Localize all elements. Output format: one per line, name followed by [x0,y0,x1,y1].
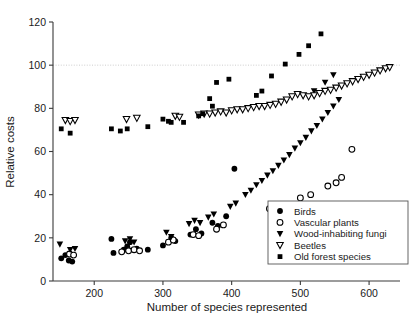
data-point [339,174,345,180]
x-tick-label: 600 [360,287,378,299]
legend-label: Birds [294,206,316,217]
data-point [207,96,212,101]
data-point [145,124,150,129]
data-point [59,126,64,131]
legend: BirdsVascular plantsWood-inhabiting fung… [268,201,408,264]
data-point [126,248,132,254]
data-point [322,80,329,86]
legend-label: Wood-inhabiting fungi [294,228,387,239]
y-tick-label: 0 [40,275,46,287]
data-point [214,226,220,232]
y-tick-label: 40 [34,188,46,200]
data-point [161,117,166,122]
data-point [308,128,315,134]
data-point [254,93,259,98]
data-point [336,97,343,103]
y-tick-label: 20 [34,232,46,244]
data-point [261,103,268,109]
legend-label: Old forest species [294,251,371,262]
data-point [270,168,277,174]
figure-container: 020406080100120200300400500600 Number of… [0,0,415,334]
data-point [333,180,339,186]
data-point [292,146,299,152]
data-point [197,220,204,226]
data-point [297,140,304,146]
data-point [212,110,219,116]
legend-marker-icon [277,208,283,214]
data-point [308,192,314,198]
legend-marker-icon [277,219,283,225]
data-point [220,222,226,228]
data-point [227,204,234,210]
y-tick-label: 80 [34,102,46,114]
data-point [196,113,201,118]
data-point [239,107,246,113]
data-point [325,183,331,189]
data-point [169,120,174,125]
data-point [108,236,114,242]
data-point [68,131,73,136]
legend-marker-icon [278,254,283,259]
data-point [325,110,332,116]
data-point [200,111,205,116]
data-point [311,93,318,99]
data-point [109,126,114,131]
data-point [297,52,302,57]
data-point [327,87,334,93]
data-point [232,201,239,207]
series-beetles [62,65,393,125]
x-tick-label: 200 [85,287,103,299]
data-point [211,211,218,217]
data-point [191,218,198,224]
data-point [303,135,310,141]
data-point [137,248,143,254]
data-point [281,157,288,163]
data-point [231,166,237,172]
data-point [267,102,274,108]
data-point [259,178,266,184]
x-tick-label: 300 [154,287,172,299]
data-point [275,163,282,169]
data-point [283,62,288,67]
series-old-forest-species [59,31,324,135]
legend-label: Vascular plants [294,217,359,228]
data-point [259,89,264,94]
data-point [269,74,274,79]
y-tick-label: 100 [28,59,46,71]
x-tick-label: 500 [292,287,310,299]
data-point [253,182,260,188]
data-point [210,104,215,109]
data-point [206,111,213,117]
data-point [196,233,202,239]
data-point [72,246,79,252]
data-point [205,215,212,221]
data-point [123,116,130,122]
data-point [264,173,271,179]
data-point [160,242,166,248]
y-axis-title: Relative costs [4,116,16,188]
x-axis-title: Number of species represented [147,301,307,313]
data-point [210,220,216,226]
legend-label: Beetles [294,240,326,251]
data-point [306,43,311,48]
data-point [297,195,303,201]
data-point [223,110,230,116]
y-tick-label: 120 [28,16,46,28]
data-point [71,252,77,258]
data-point [118,129,123,134]
data-point [186,221,193,227]
y-tick-label: 60 [34,145,46,157]
data-point [190,232,196,238]
data-point [248,188,255,194]
scatter-plot: 020406080100120200300400500600 Number of… [0,0,415,334]
data-point [125,126,130,131]
data-point [223,213,229,219]
data-point [134,115,141,121]
data-point [131,247,137,253]
data-point [176,114,183,120]
legend-item-wood-inhabiting-fungi[interactable]: Wood-inhabiting fungi [277,228,387,239]
data-point [227,77,232,82]
data-point [250,105,257,111]
data-point [242,192,249,198]
data-point [245,106,252,112]
